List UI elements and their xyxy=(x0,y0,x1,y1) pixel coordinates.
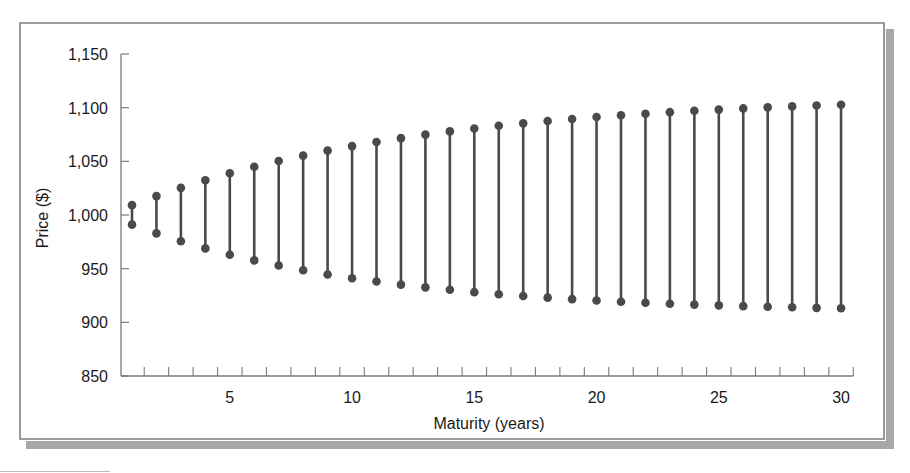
lower-price-dot xyxy=(812,304,821,313)
y-tick-label: 950 xyxy=(81,261,108,278)
data-series xyxy=(128,100,846,312)
upper-price-dot xyxy=(226,169,235,178)
upper-price-dot xyxy=(201,176,210,185)
lower-price-dot xyxy=(250,256,259,265)
upper-price-dot xyxy=(812,101,821,110)
price-range-bar xyxy=(641,109,650,307)
lower-price-dot xyxy=(226,250,235,259)
x-tick-label: 30 xyxy=(832,389,850,406)
lower-price-dot xyxy=(666,299,675,308)
lower-price-dot xyxy=(763,302,772,311)
lower-price-dot xyxy=(568,295,577,304)
y-tick-label: 1,150 xyxy=(68,46,108,63)
upper-price-dot xyxy=(397,134,406,143)
lower-price-dot xyxy=(446,286,455,295)
y-tick-label: 850 xyxy=(81,368,108,385)
price-range-bar xyxy=(812,101,821,312)
x-axis-title: Maturity (years) xyxy=(433,415,544,432)
upper-price-dot xyxy=(494,122,503,131)
lower-price-dot xyxy=(470,288,479,297)
price-range-bar xyxy=(323,146,332,278)
price-range-bar xyxy=(494,122,503,299)
price-range-bar xyxy=(788,102,797,312)
price-range-bar xyxy=(177,184,186,246)
lower-price-dot xyxy=(690,300,699,309)
lower-price-dot xyxy=(299,266,308,275)
y-axis-title: Price ($) xyxy=(34,188,51,248)
y-tick-label: 900 xyxy=(81,314,108,331)
price-range-bar xyxy=(201,176,210,253)
price-range-bar xyxy=(152,192,161,238)
y-tick-label: 1,050 xyxy=(68,153,108,170)
lower-price-dot xyxy=(543,293,552,302)
lower-price-dot xyxy=(592,296,601,305)
price-range-bar xyxy=(617,111,626,306)
upper-price-dot xyxy=(128,201,137,210)
x-tick-label: 25 xyxy=(710,389,728,406)
lower-price-dot xyxy=(519,292,528,301)
upper-price-dot xyxy=(666,108,675,117)
price-range-bar xyxy=(543,117,552,302)
lower-price-dot xyxy=(372,277,381,286)
lower-price-dot xyxy=(128,220,137,229)
upper-price-dot xyxy=(274,157,283,166)
price-range-bar xyxy=(226,169,235,259)
x-tick-label: 10 xyxy=(343,389,361,406)
lower-price-dot xyxy=(348,274,357,283)
upper-price-dot xyxy=(446,127,455,136)
price-range-bar xyxy=(763,103,772,311)
price-range-bar xyxy=(446,127,455,294)
lower-price-dot xyxy=(617,297,626,306)
chart-plot: 8509009501,0001,0501,1001,150 5101520253… xyxy=(0,0,910,473)
price-range-bar xyxy=(397,134,406,289)
lower-price-dot xyxy=(494,290,503,299)
upper-price-dot xyxy=(323,146,332,155)
upper-price-dot xyxy=(715,105,724,114)
lower-price-dot xyxy=(641,298,650,307)
x-tick-label: 15 xyxy=(465,389,483,406)
price-range-bar xyxy=(421,130,430,291)
y-tick-labels: 8509009501,0001,0501,1001,150 xyxy=(68,46,108,385)
price-range-bar xyxy=(348,142,357,283)
lower-price-dot xyxy=(739,302,748,311)
y-tick-label: 1,000 xyxy=(68,207,108,224)
upper-price-dot xyxy=(421,130,430,139)
price-range-bar xyxy=(739,104,748,310)
lower-price-dot xyxy=(421,283,430,292)
upper-price-dot xyxy=(739,104,748,113)
upper-price-dot xyxy=(763,103,772,112)
upper-price-dot xyxy=(372,138,381,147)
price-range-bar xyxy=(592,113,601,305)
lower-price-dot xyxy=(323,270,332,279)
lower-price-dot xyxy=(274,261,283,270)
x-tick-labels: 51015202530 xyxy=(225,389,850,406)
price-range-bar xyxy=(568,115,577,304)
upper-price-dot xyxy=(519,119,528,128)
upper-price-dot xyxy=(592,113,601,122)
price-range-bar xyxy=(666,108,675,308)
upper-price-dot xyxy=(788,102,797,111)
price-range-bar xyxy=(470,124,479,296)
price-range-bar xyxy=(715,105,724,309)
price-range-bar xyxy=(690,106,699,308)
upper-price-dot xyxy=(568,115,577,124)
upper-price-dot xyxy=(348,142,357,151)
upper-price-dot xyxy=(543,117,552,126)
upper-price-dot xyxy=(470,124,479,133)
lower-price-dot xyxy=(788,303,797,312)
upper-price-dot xyxy=(250,163,259,172)
upper-price-dot xyxy=(177,184,186,193)
upper-price-dot xyxy=(152,192,161,201)
price-range-bar xyxy=(299,151,308,274)
upper-price-dot xyxy=(299,151,308,160)
price-range-bar xyxy=(250,163,259,265)
upper-price-dot xyxy=(641,109,650,118)
lower-price-dot xyxy=(837,304,846,313)
price-range-bar xyxy=(519,119,528,300)
lower-price-dot xyxy=(201,244,210,253)
y-tick-label: 1,100 xyxy=(68,100,108,117)
x-tick-label: 20 xyxy=(588,389,606,406)
upper-price-dot xyxy=(690,106,699,115)
lower-price-dot xyxy=(397,280,406,289)
price-range-bar xyxy=(837,100,846,312)
